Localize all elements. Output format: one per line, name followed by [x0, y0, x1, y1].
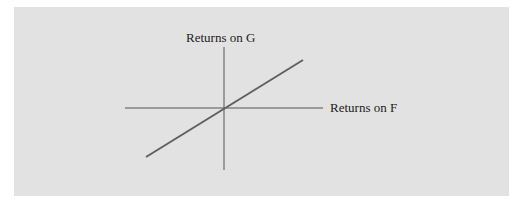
x-axis-label: Returns on F [330, 100, 397, 116]
y-axis-label: Returns on G [186, 30, 255, 46]
diagram-canvas [0, 0, 521, 210]
